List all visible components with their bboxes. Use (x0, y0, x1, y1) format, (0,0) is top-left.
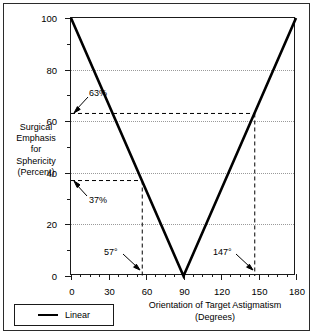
y-tick-label-0: 0 (52, 272, 57, 282)
arrowhead-63-percent (74, 107, 80, 113)
x-tick-label-0: 0 (69, 287, 74, 297)
y-tick-label-60: 60 (46, 117, 57, 127)
y-axis-title-line-3: for (31, 144, 42, 154)
x-axis-title: Orientation of Target Astigmatism (Degre… (120, 300, 310, 323)
y-axis-title: Surgical Emphasis for Sphericity (Percen… (5, 122, 67, 178)
annotation-label-63-percent: 63% (89, 89, 107, 98)
annotation-label-37-percent: 37% (89, 196, 107, 205)
data-line-linear (71, 18, 296, 276)
figure-container: Surgical Emphasis for Sphericity (Percen… (0, 0, 314, 335)
x-tick-label-30: 30 (104, 287, 115, 297)
x-tick-label-90: 90 (179, 287, 190, 297)
plot-svg (71, 18, 296, 276)
legend-box: Linear (14, 304, 114, 326)
annotation-label-57-degrees: 57° (104, 248, 118, 257)
x-tick-label-150: 150 (252, 287, 268, 297)
arrowhead-37-percent (74, 181, 80, 188)
leader-147-degrees (236, 254, 250, 267)
y-tick-label-100: 100 (41, 14, 57, 24)
x-axis-title-line-2: (Degrees) (120, 312, 310, 324)
y-tick-label-20: 20 (46, 221, 57, 231)
legend-label-linear: Linear (65, 311, 90, 320)
plot-area: 100 80 60 40 20 0 0 30 60 (70, 17, 295, 275)
y-axis-title-line-2: Emphasis (16, 133, 56, 143)
y-tick-label-80: 80 (46, 66, 57, 76)
x-axis-title-line-1: Orientation of Target Astigmatism (120, 300, 310, 312)
annotation-label-147-degrees: 147° (213, 248, 232, 257)
legend-line-swatch (38, 314, 58, 316)
x-tick-label-120: 120 (214, 287, 230, 297)
x-tick-label-60: 60 (142, 287, 153, 297)
x-tick-180: 180 (296, 274, 297, 280)
y-tick-label-40: 40 (46, 169, 57, 179)
x-tick-label-180: 180 (289, 287, 305, 297)
leader-57-degrees (123, 254, 137, 267)
y-axis-title-line-4: Sphericity (16, 156, 56, 166)
